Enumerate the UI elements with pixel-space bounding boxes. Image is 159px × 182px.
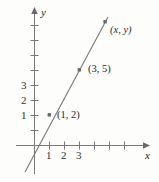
point-annotation-1-2: (1, 2)	[57, 110, 80, 121]
point-marker-3-5	[78, 68, 81, 71]
y-axis-label: y	[41, 7, 46, 18]
y-tick-label-1: 1	[21, 110, 27, 121]
point-annotation-x-y: (x, y)	[110, 25, 132, 36]
y-tick-label-3: 3	[21, 80, 27, 91]
x-tick-label-2: 2	[61, 150, 67, 161]
y-axis-arrowhead	[31, 7, 38, 14]
x-axis-label: x	[145, 150, 150, 161]
coordinate-plane-figure: y x 3 2 1 1 2 3 (1, 2) (3, 5) (x, y)	[0, 0, 159, 182]
x-tick-label-3: 3	[76, 150, 82, 161]
x-axis-arrowhead	[143, 142, 150, 149]
point-marker-x-y	[103, 20, 106, 23]
y-tick-label-2: 2	[21, 95, 27, 106]
point-marker-1-2	[48, 113, 51, 116]
point-annotation-3-5: (3, 5)	[88, 64, 111, 75]
x-tick-label-1: 1	[46, 150, 52, 161]
